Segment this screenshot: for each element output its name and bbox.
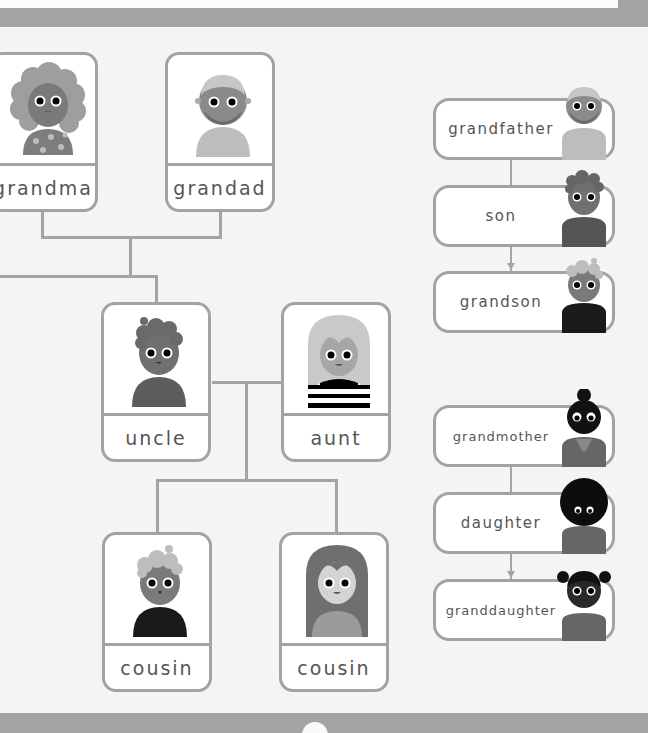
- card-grandad[interactable]: grandad: [165, 52, 275, 212]
- arrow-down-icon: [507, 263, 515, 270]
- card-uncle[interactable]: uncle: [101, 302, 211, 462]
- pill-label: grandfather: [436, 101, 566, 157]
- pill-grandson[interactable]: grandson: [433, 271, 615, 333]
- card-label: grandma: [0, 166, 95, 209]
- card-grandma[interactable]: grandma: [0, 52, 98, 212]
- card-label: aunt: [284, 416, 388, 459]
- granddaughter-avatar: [554, 563, 614, 641]
- daughter-avatar: [554, 476, 614, 554]
- card-label: cousin: [282, 646, 386, 689]
- pill-label: grandmother: [436, 408, 566, 464]
- pill-grandmother[interactable]: grandmother: [433, 405, 615, 467]
- pill-label: daughter: [436, 495, 566, 551]
- connector-line: [510, 158, 512, 188]
- connector-line: [510, 465, 512, 493]
- aunt-avatar: [284, 305, 388, 413]
- connector-line: [335, 479, 338, 533]
- grandson-avatar: [554, 255, 614, 333]
- son-avatar: [554, 169, 614, 247]
- top-corner-tab: [618, 0, 648, 8]
- cousin-boy-avatar: [105, 535, 209, 643]
- arrow-down-icon: [507, 571, 515, 578]
- cousin-girl-avatar: [282, 535, 386, 643]
- pill-son[interactable]: son: [433, 185, 615, 247]
- card-cousin-boy[interactable]: cousin: [102, 532, 212, 692]
- connector-line: [156, 479, 338, 482]
- connector-line: [155, 275, 158, 303]
- grandma-avatar: [0, 55, 95, 163]
- connector-line: [41, 210, 44, 239]
- card-cousin-girl[interactable]: cousin: [279, 532, 389, 692]
- pill-label: son: [436, 188, 566, 244]
- pill-granddaughter[interactable]: granddaughter: [433, 579, 615, 641]
- connector-line: [0, 275, 158, 278]
- top-page-edge: [0, 0, 630, 8]
- connector-line: [156, 479, 159, 533]
- card-label: uncle: [104, 416, 208, 459]
- connector-line: [219, 210, 222, 239]
- grandfather-avatar: [554, 82, 614, 160]
- pill-label: grandson: [436, 274, 566, 330]
- card-label: cousin: [105, 646, 209, 689]
- connector-line: [129, 236, 132, 277]
- uncle-avatar: [104, 305, 208, 413]
- grandmother-avatar: [554, 389, 614, 467]
- pill-grandfather[interactable]: grandfather: [433, 98, 615, 160]
- grandad-avatar: [168, 55, 272, 163]
- pill-daughter[interactable]: daughter: [433, 492, 615, 554]
- connector-line: [245, 381, 248, 481]
- card-aunt[interactable]: aunt: [281, 302, 391, 462]
- top-banner-bar: [0, 8, 648, 27]
- pill-label: granddaughter: [436, 582, 566, 638]
- card-label: grandad: [168, 166, 272, 209]
